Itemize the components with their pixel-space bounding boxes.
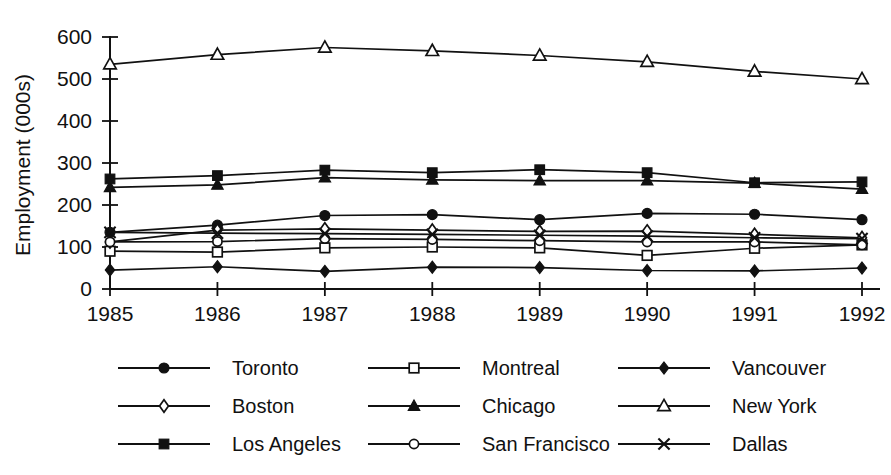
filled-square-marker — [105, 174, 115, 184]
filled-circle-marker — [159, 363, 169, 373]
x-tick-label: 1991 — [731, 302, 778, 325]
x-tick-label: 1985 — [87, 302, 134, 325]
legend-item-toronto[interactable]: Toronto — [118, 357, 299, 379]
filled-diamond-marker — [857, 262, 866, 274]
legend-item-boston[interactable]: Boston — [118, 395, 294, 417]
open-square-marker — [642, 251, 652, 261]
x-tick-label: 1992 — [839, 302, 886, 325]
open-square-marker — [409, 363, 419, 373]
y-tick-label: 400 — [57, 109, 92, 132]
y-tick-label: 600 — [57, 25, 92, 48]
open-diamond-marker — [160, 400, 169, 412]
filled-circle-marker — [320, 211, 330, 221]
open-square-marker — [213, 247, 223, 257]
legend-item-los-angeles[interactable]: Los Angeles — [118, 433, 341, 455]
open-circle-marker — [213, 237, 222, 246]
filled-square-marker — [642, 168, 652, 178]
filled-square-marker — [535, 165, 545, 175]
x-tick-label: 1990 — [624, 302, 671, 325]
filled-circle-marker — [642, 208, 652, 218]
series-vancouver — [105, 261, 866, 278]
legend-item-vancouver[interactable]: Vancouver — [618, 357, 826, 379]
series-line — [110, 267, 862, 272]
legend-label: Chicago — [482, 395, 555, 417]
legend-label: Montreal — [482, 357, 560, 379]
filled-square-marker — [750, 178, 760, 188]
filled-square-marker — [213, 171, 223, 181]
filled-diamond-marker — [213, 261, 222, 273]
x-tick-label: 1986 — [194, 302, 241, 325]
filled-diamond-marker — [659, 362, 668, 374]
x-tick-label: 1989 — [516, 302, 563, 325]
legend-item-montreal[interactable]: Montreal — [368, 357, 560, 379]
filled-circle-marker — [427, 210, 437, 220]
y-tick-label: 100 — [57, 235, 92, 258]
y-tick-label: 0 — [80, 277, 92, 300]
series-layer — [104, 41, 869, 277]
legend-label: Vancouver — [732, 357, 826, 379]
x-tick-label: 1988 — [409, 302, 456, 325]
filled-circle-marker — [857, 215, 867, 225]
chart-legend: TorontoMontrealVancouverBostonChicagoNew… — [118, 357, 826, 455]
employment-line-chart: Employment (000s) 0100200300400500600 19… — [0, 0, 891, 475]
open-triangle-marker — [319, 41, 332, 52]
legend-label: San Francisco — [482, 433, 610, 455]
filled-circle-marker — [535, 215, 545, 225]
y-tick-label: 500 — [57, 67, 92, 90]
legend-label: Los Angeles — [232, 433, 341, 455]
series-new-york — [104, 41, 869, 84]
legend-item-dallas[interactable]: Dallas — [618, 433, 788, 455]
open-circle-marker — [105, 237, 114, 246]
legend-item-chicago[interactable]: Chicago — [368, 395, 555, 417]
legend-label: Dallas — [732, 433, 788, 455]
open-triangle-marker — [658, 399, 671, 410]
filled-diamond-marker — [428, 261, 437, 273]
filled-diamond-marker — [750, 265, 759, 277]
legend-item-san-francisco[interactable]: San Francisco — [368, 433, 610, 455]
y-axis-title: Employment (000s) — [11, 74, 34, 256]
legend-item-new-york[interactable]: New York — [618, 395, 817, 417]
legend-label: New York — [732, 395, 817, 417]
filled-square-marker — [320, 165, 330, 175]
open-square-marker — [320, 243, 330, 253]
x-tick-label: 1987 — [301, 302, 348, 325]
y-tick-label: 300 — [57, 151, 92, 174]
filled-diamond-marker — [535, 262, 544, 274]
filled-diamond-marker — [105, 264, 114, 276]
y-tick-label: 200 — [57, 193, 92, 216]
open-circle-marker — [409, 439, 418, 448]
legend-label: Boston — [232, 395, 294, 417]
chart-canvas: Employment (000s) 0100200300400500600 19… — [0, 0, 891, 475]
y-axis-title-text: Employment (000s) — [11, 74, 34, 256]
filled-square-marker — [427, 168, 437, 178]
filled-diamond-marker — [642, 265, 651, 277]
filled-circle-marker — [750, 209, 760, 219]
filled-diamond-marker — [320, 265, 329, 277]
filled-square-marker — [159, 439, 169, 449]
filled-square-marker — [857, 177, 867, 187]
open-triangle-marker — [426, 44, 439, 55]
legend-label: Toronto — [232, 357, 299, 379]
